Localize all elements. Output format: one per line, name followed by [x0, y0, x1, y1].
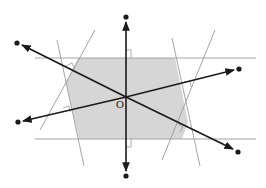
geometry-figure: [0, 0, 266, 188]
origin-label: O: [116, 98, 124, 110]
point-upper-left: [14, 40, 19, 45]
shaded-hexagon: [66, 58, 188, 139]
point-top: [123, 14, 128, 19]
point-bottom: [123, 173, 128, 178]
arrow-lines: [22, 22, 234, 171]
diagram-canvas: O: [0, 0, 266, 188]
point-lower-left: [15, 119, 20, 124]
point-upper-right: [236, 66, 241, 71]
point-lower-right: [235, 149, 240, 154]
